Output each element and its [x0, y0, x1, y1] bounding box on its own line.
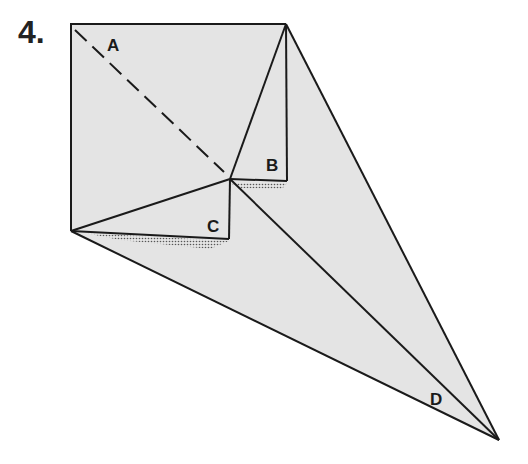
fold-diagram-icon: A B C D [0, 0, 528, 464]
label-b: B [266, 156, 278, 175]
label-a: A [107, 36, 119, 55]
label-d: D [430, 390, 442, 409]
fold-diagram: 4. A B C D [0, 0, 528, 464]
step-number: 4. [18, 14, 45, 51]
label-c: C [207, 217, 219, 236]
